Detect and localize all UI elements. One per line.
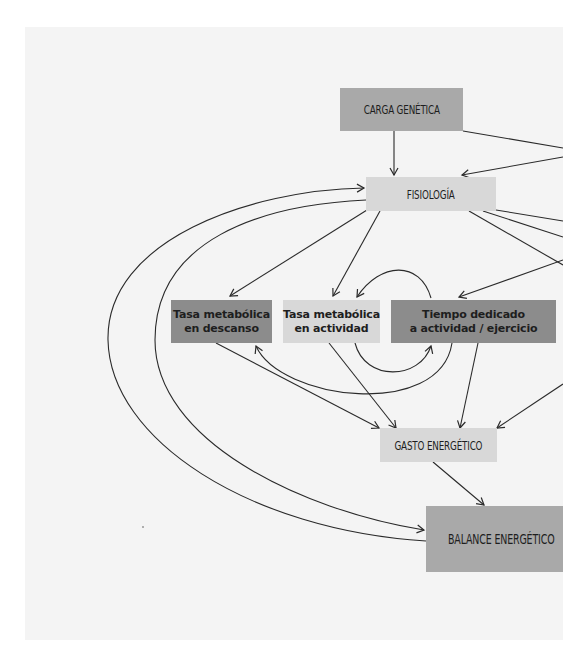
- edge-tiempo-to-tasa-descanso: [256, 343, 452, 394]
- node-gasto-energetico: GASTO ENERGÉTICO: [380, 428, 497, 462]
- node-label-line1: Tasa metabólica: [173, 308, 270, 322]
- stray-dot: [142, 526, 144, 528]
- edge-tiempo-to-tasa-actividad: [357, 270, 431, 298]
- node-balance-energetico: BALANCE ENERGÉTICO: [426, 506, 563, 572]
- node-fisiologia: FISIOLOGÍA: [366, 177, 496, 211]
- node-label-line2: a actividad / ejercicio: [410, 322, 538, 336]
- node-label-line2: en descanso: [173, 322, 270, 336]
- node-label-line2: en actividad: [283, 322, 380, 336]
- edge-offscreen-to-tiempo: [459, 260, 563, 297]
- edge-offscreen-to-fisiologia: [462, 157, 563, 175]
- node-label-line1: Tiempo dedicado: [410, 308, 538, 322]
- edge-tasa-actividad-to-gasto: [329, 343, 396, 428]
- node-label: CARGA GENÉTICA: [363, 102, 439, 117]
- edge-gasto-to-balance: [433, 462, 484, 505]
- edge-carga-to-offscreen: [463, 131, 563, 148]
- edge-fisiologia-to-tasa-descanso: [230, 210, 367, 296]
- node-label: BALANCE ENERGÉTICO: [448, 531, 554, 547]
- edge-offscreen-to-gasto: [497, 384, 563, 428]
- node-carga-genetica: CARGA GENÉTICA: [340, 88, 463, 131]
- node-label: GASTO ENERGÉTICO: [395, 438, 483, 453]
- node-label: FISIOLOGÍA: [407, 187, 455, 202]
- node-tiempo-actividad-ejercicio: Tiempo dedicado a actividad / ejercicio: [391, 300, 556, 343]
- edge-tasa-actividad-to-tiempo: [355, 343, 431, 372]
- edge-balance-to-fisiologia-outer: [108, 188, 426, 541]
- edge-tiempo-to-gasto: [460, 343, 478, 428]
- edge-fisiologia-to-balance-inner: [155, 200, 424, 530]
- node-tasa-metabolica-actividad: Tasa metabólica en actividad: [283, 300, 380, 343]
- edge-fisiologia-to-offscreen-1: [496, 210, 563, 221]
- edge-fisiologia-to-tasa-actividad: [333, 211, 380, 296]
- node-tasa-metabolica-descanso: Tasa metabólica en descanso: [171, 300, 272, 343]
- node-label-line1: Tasa metabólica: [283, 308, 380, 322]
- edge-tasa-descanso-to-gasto: [216, 343, 379, 428]
